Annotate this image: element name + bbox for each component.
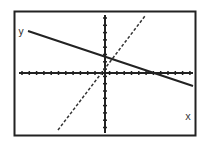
- y-axis-label: y: [18, 26, 24, 37]
- solid-line: [28, 31, 193, 86]
- x-axis-label: x: [185, 111, 191, 122]
- graph-canvas: y x: [0, 0, 206, 145]
